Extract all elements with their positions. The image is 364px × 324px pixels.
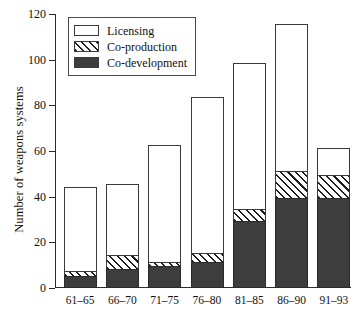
bar-segment-licensing[interactable] <box>191 97 224 253</box>
x-axis-labels: 61–6566–7071–7576–8081–8586–9091–93 <box>55 294 351 318</box>
legend-label: Co-production <box>107 41 177 53</box>
x-axis-label-5: 81–85 <box>228 294 270 306</box>
bar-segment-codevelopment[interactable] <box>275 198 308 288</box>
bar-segment-codevelopment[interactable] <box>191 262 224 288</box>
x-axis-label-2: 66–70 <box>101 294 143 306</box>
legend-label: Licensing <box>107 25 154 37</box>
y-tick-label: 60 <box>34 145 46 157</box>
legend-item: Co-production <box>74 39 187 54</box>
y-tick-mark <box>49 288 55 289</box>
y-tick-label: 80 <box>34 99 46 111</box>
bar-segment-licensing[interactable] <box>317 148 350 176</box>
y-axis-title: Number of weapons systems <box>12 55 27 265</box>
bar-group[interactable] <box>148 146 181 288</box>
bar-segment-coproduction[interactable] <box>317 175 350 199</box>
y-tick-label: 20 <box>34 236 46 248</box>
x-axis-label-1: 61–65 <box>59 294 101 306</box>
bar-group[interactable] <box>233 64 266 288</box>
legend-item: Co-development <box>74 55 187 70</box>
bar-group[interactable] <box>275 25 308 288</box>
y-tick-label: 0 <box>40 282 46 294</box>
x-axis-label-4: 76–80 <box>186 294 228 306</box>
legend-item: Licensing <box>74 23 187 38</box>
legend-swatch-white <box>74 25 99 36</box>
bar-segment-codevelopment[interactable] <box>148 266 181 288</box>
chart-legend: LicensingCo-productionCo-development <box>68 17 196 76</box>
y-tick-label: 40 <box>34 191 46 203</box>
bar-segment-codevelopment[interactable] <box>64 276 97 288</box>
bar-segment-licensing[interactable] <box>233 63 266 210</box>
bar-group[interactable] <box>317 149 350 288</box>
bar-group[interactable] <box>64 188 97 288</box>
y-tick-label: 120 <box>28 8 46 20</box>
bar-group[interactable] <box>191 98 224 288</box>
bar-group[interactable] <box>106 185 139 288</box>
bar-segment-coproduction[interactable] <box>106 255 139 270</box>
stacked-bar-chart: Number of weapons systems 02040608010012… <box>0 0 364 324</box>
bar-segment-licensing[interactable] <box>106 184 139 256</box>
bar-segment-coproduction[interactable] <box>275 171 308 199</box>
bar-segment-licensing[interactable] <box>148 145 181 262</box>
bar-segment-codevelopment[interactable] <box>233 221 266 288</box>
y-tick-label: 100 <box>28 54 46 66</box>
bar-segment-licensing[interactable] <box>275 24 308 171</box>
bar-segment-codevelopment[interactable] <box>106 269 139 288</box>
legend-label: Co-development <box>107 57 187 69</box>
x-axis-label-3: 71–75 <box>144 294 186 306</box>
legend-swatch-dark <box>74 57 99 68</box>
legend-swatch-hatch <box>74 41 99 52</box>
bar-segment-licensing[interactable] <box>64 187 97 272</box>
bar-segment-codevelopment[interactable] <box>317 198 350 288</box>
x-axis-label-7: 91–93 <box>313 294 355 306</box>
x-axis-label-6: 86–90 <box>270 294 312 306</box>
